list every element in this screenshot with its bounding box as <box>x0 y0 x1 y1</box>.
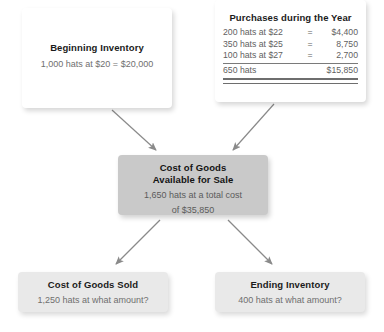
node-cost-of-goods-sold: Cost of Goods Sold 1,250 hats at what am… <box>18 272 168 312</box>
cogs-title: Cost of Goods Sold <box>18 279 168 291</box>
available-body-line1: 1,650 hats at a total cost <box>118 189 268 201</box>
ending-inventory-body: 400 hats at what amount? <box>215 294 365 306</box>
purchases-row-0-desc: 200 hats at $22 <box>223 27 305 39</box>
cogs-body: 1,250 hats at what amount? <box>18 294 168 306</box>
purchases-row-2-amt: 2,700 <box>315 50 358 63</box>
beginning-inventory-title: Beginning Inventory <box>22 42 172 54</box>
purchases-row-1-eq: = <box>305 39 315 51</box>
arrow-available-to-cogs <box>116 220 160 264</box>
arrow-available-to-ending <box>228 220 272 264</box>
table-row: 100 hats at $27 = 2,700 <box>223 50 358 63</box>
purchases-title: Purchases during the Year <box>223 12 358 24</box>
purchases-row-2-desc: 100 hats at $27 <box>223 50 305 63</box>
purchases-total-eq <box>305 63 315 76</box>
beginning-inventory-body: 1,000 hats at $20 = $20,000 <box>22 58 172 70</box>
arrow-beginning-to-available <box>112 110 156 150</box>
available-title-line1: Cost of Goods <box>118 162 268 174</box>
node-beginning-inventory: Beginning Inventory 1,000 hats at $20 = … <box>22 8 172 108</box>
purchases-row-1-desc: 350 hats at $25 <box>223 39 305 51</box>
table-row: 200 hats at $22 = $4,400 <box>223 27 358 39</box>
table-row: 350 hats at $25 = 8,750 <box>223 39 358 51</box>
node-purchases: Purchases during the Year 200 hats at $2… <box>215 0 366 102</box>
purchases-row-2-eq: = <box>305 50 315 63</box>
ending-inventory-title: Ending Inventory <box>215 279 365 291</box>
node-ending-inventory: Ending Inventory 400 hats at what amount… <box>215 272 365 312</box>
purchases-row-1-amt: 8,750 <box>315 39 358 51</box>
table-row-total: 650 hats $15,850 <box>223 63 358 76</box>
arrow-purchases-to-available <box>233 104 274 150</box>
inventory-flow-diagram: Beginning Inventory 1,000 hats at $20 = … <box>0 0 384 332</box>
purchases-total-desc: 650 hats <box>223 63 305 76</box>
purchases-table: 200 hats at $22 = $4,400 350 hats at $25… <box>223 27 358 76</box>
available-body-line2: of $35,850 <box>118 204 268 216</box>
purchases-double-rule <box>223 78 358 84</box>
purchases-row-0-eq: = <box>305 27 315 39</box>
purchases-total-amt: $15,850 <box>315 63 358 76</box>
purchases-row-0-amt: $4,400 <box>315 27 358 39</box>
node-cost-of-goods-available: Cost of Goods Available for Sale 1,650 h… <box>118 155 268 215</box>
available-title-line2: Available for Sale <box>118 174 268 186</box>
